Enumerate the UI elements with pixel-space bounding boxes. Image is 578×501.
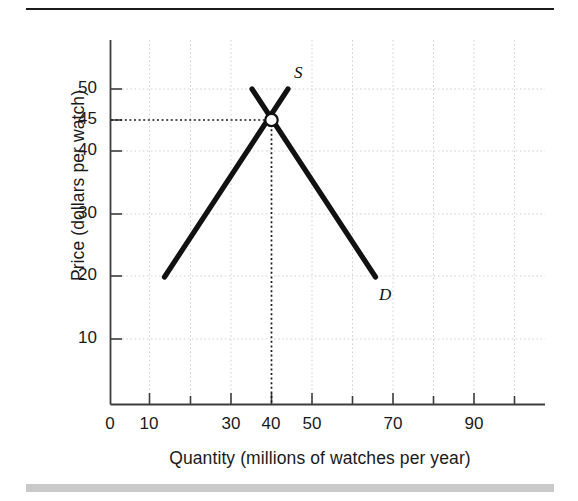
y-tick-label-10: 10	[53, 328, 97, 348]
horizontal-gridlines	[110, 89, 545, 339]
x-tick-label-10: 10	[129, 414, 169, 434]
x-axis-title: Quantity (millions of watches per year)	[90, 448, 550, 469]
x-tick-label-40: 40	[251, 414, 291, 434]
x-tick-label-70: 70	[373, 414, 413, 434]
y-tick-label-20: 20	[53, 265, 97, 285]
y-tick-label-40: 40	[53, 140, 97, 160]
equilibrium-point-marker	[265, 114, 277, 126]
y-tick-label-45: 45	[53, 109, 97, 129]
x-tick-label-30: 30	[211, 414, 251, 434]
x-tick-label-50: 50	[292, 414, 332, 434]
axis-lines	[111, 40, 546, 405]
supply-curve-label: S	[294, 63, 303, 83]
demand-curve-label: D	[379, 285, 391, 305]
y-tick-label-50: 50	[53, 78, 97, 98]
x-tick-label-90: 90	[454, 414, 494, 434]
y-tick-label-30: 30	[53, 203, 97, 223]
y-tick-marks	[111, 89, 123, 339]
x-tick-marks	[150, 393, 515, 405]
figure-panel: Price (dollars per watch) Quantity (mill…	[0, 0, 578, 501]
x-tick-label-0: 0	[90, 414, 130, 434]
